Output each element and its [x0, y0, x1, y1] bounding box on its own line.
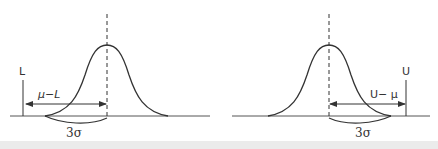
upper-limit-label: U [402, 65, 410, 78]
left-3sigma-brace [45, 116, 107, 123]
left-3sigma-label: 3σ [66, 126, 82, 140]
right-3sigma-label: 3σ [355, 126, 371, 140]
lower-limit-label: L [19, 65, 26, 78]
diagram-svg: L μ−L 3σ U U− μ 3σ [0, 0, 438, 149]
diagram-canvas: L μ−L 3σ U U− μ 3σ [0, 0, 438, 149]
bottom-band [0, 141, 438, 149]
right-panel: U U− μ 3σ [232, 14, 430, 140]
u-minus-mu-label: U− μ [370, 88, 398, 101]
left-panel: L μ−L 3σ [10, 14, 210, 140]
mu-minus-l-label: μ−L [37, 88, 60, 101]
right-3sigma-brace [329, 116, 391, 123]
